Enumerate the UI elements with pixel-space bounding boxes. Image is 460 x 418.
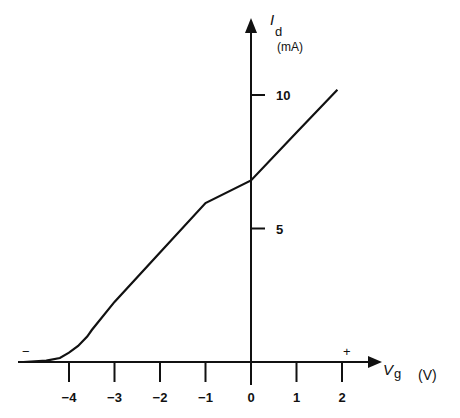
x-tick-label: 1 bbox=[293, 390, 300, 405]
x-axis-unit: (V) bbox=[418, 367, 437, 383]
x-tick-label: −2 bbox=[153, 390, 168, 405]
x-axis-label-subscript: g bbox=[394, 366, 401, 381]
x-tick-label: −4 bbox=[62, 390, 78, 405]
id-vg-curve bbox=[24, 90, 338, 362]
x-tick-label: −3 bbox=[107, 390, 122, 405]
positive-sign-annotation: + bbox=[343, 344, 351, 359]
x-tick-label: −1 bbox=[198, 390, 213, 405]
x-tick-label: 0 bbox=[247, 390, 254, 405]
negative-sign-annotation: − bbox=[22, 344, 30, 359]
x-ticks: −4−3−2−1012 bbox=[62, 362, 346, 405]
y-axis-arrow-icon bbox=[245, 18, 257, 33]
y-tick-label: 10 bbox=[276, 88, 290, 103]
y-tick-label: 5 bbox=[276, 222, 283, 237]
y-axis-unit: (mA) bbox=[277, 40, 303, 54]
chart: −4−3−2−1012 510 I d (mA) V g (V) − + bbox=[0, 0, 460, 418]
y-axis-label: I bbox=[270, 11, 274, 28]
x-axis-arrow-icon bbox=[368, 356, 382, 368]
y-axis-label-subscript: d bbox=[275, 24, 282, 39]
x-tick-label: 2 bbox=[338, 390, 345, 405]
y-ticks: 510 bbox=[251, 88, 290, 237]
